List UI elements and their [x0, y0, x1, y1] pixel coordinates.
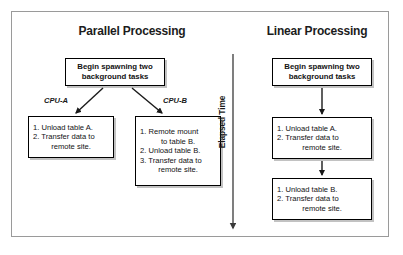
linear-start-line-1: Begin spawning two — [277, 62, 367, 72]
cpu-a-step-1: 1. Unload table A. — [33, 123, 109, 133]
parallel-start-line-1: Begin spawning two — [70, 62, 160, 72]
linear-task-box-1: 1. Unload table A. 2. Transfer data to r… — [272, 117, 372, 159]
heading-linear-processing: Linear Processing — [248, 24, 386, 38]
cpu-b-task-box: 1. Remote mount to table B. 2. Unload ta… — [135, 116, 221, 186]
cpu-b-label: CPU-B — [163, 96, 187, 105]
linear-start-line-2: background tasks — [277, 72, 367, 82]
parallel-start-line-2: background tasks — [70, 72, 160, 82]
linear-2-step-2: 2. Transfer data to — [277, 194, 367, 204]
cpu-b-step-3: 3. Transfer data to — [140, 156, 216, 166]
linear-1-step-2-cont: remote site. — [277, 143, 367, 153]
cpu-a-step-2: 2. Transfer data to — [33, 132, 109, 142]
parallel-start-box: Begin spawning two background tasks — [65, 58, 165, 86]
linear-1-step-1: 1. Unload table A. — [277, 124, 367, 134]
linear-2-step-1: 1. Unload table B. — [277, 185, 367, 195]
linear-start-box: Begin spawning two background tasks — [272, 58, 372, 86]
diagram-figure: Parallel Processing Linear Processing Be… — [0, 0, 403, 255]
cpu-a-step-2-cont: remote site. — [33, 142, 109, 152]
cpu-b-step-1-cont: to table B. — [140, 137, 216, 147]
cpu-a-label: CPU-A — [44, 96, 68, 105]
linear-1-step-2: 2. Transfer data to — [277, 133, 367, 143]
elapsed-time-label: Elapsed Time — [217, 96, 227, 149]
linear-2-step-2-cont: remote site. — [277, 204, 367, 214]
linear-task-box-2: 1. Unload table B. 2. Transfer data to r… — [272, 178, 372, 220]
cpu-b-step-2: 2. Unload table B. — [140, 146, 216, 156]
cpu-b-step-3-cont: remote site. — [140, 165, 216, 175]
cpu-a-task-box: 1. Unload table A. 2. Transfer data to r… — [28, 116, 114, 158]
heading-parallel-processing: Parallel Processing — [52, 24, 212, 38]
cpu-b-step-1: 1. Remote mount — [140, 127, 216, 137]
